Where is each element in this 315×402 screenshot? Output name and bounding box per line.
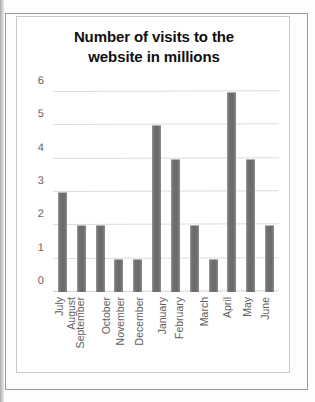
y-axis-tick-label: 1 [38, 241, 44, 253]
bar-slot [185, 92, 204, 292]
bar [114, 259, 123, 292]
x-axis-tick-label: December [132, 297, 144, 345]
bar-slot [222, 92, 241, 292]
y-axis-tick-label: 3 [38, 174, 44, 186]
bar [209, 259, 218, 292]
y-axis-tick-label: 5 [38, 107, 44, 119]
x-label-slot: May [241, 295, 260, 367]
x-axis-labels: JulyAugustSeptemberOctoberNovemberDecemb… [53, 295, 279, 367]
scanned-page: Number of visits to the website in milli… [0, 0, 315, 402]
bar-slot [204, 92, 223, 292]
bar-slot [241, 92, 260, 292]
bar [265, 225, 274, 292]
bar-slot [166, 92, 185, 292]
chart-title-line-2: website in millions [31, 47, 277, 67]
y-axis-tick-label: 6 [38, 74, 44, 86]
bar-series [53, 92, 279, 292]
bar-slot [147, 92, 166, 292]
plot-area: 0123456 [53, 92, 279, 292]
bar [58, 192, 67, 292]
x-axis-tick-label: April [221, 297, 233, 318]
bar [96, 225, 105, 292]
bar [152, 125, 161, 292]
bar [246, 159, 255, 292]
bar-slot [109, 92, 128, 292]
x-axis-tick-label: February [173, 297, 185, 339]
x-axis-tick-label: March [198, 297, 210, 326]
bar [77, 225, 86, 292]
x-axis-tick-label: November [114, 297, 126, 345]
y-axis-tick-label: 4 [38, 141, 44, 153]
y-axis-tick-label: 2 [38, 207, 44, 219]
x-axis-tick-label: September [74, 297, 86, 348]
x-label-slot: April [222, 295, 241, 367]
chart-title-line-1: Number of visits to the [31, 27, 277, 47]
bar [190, 225, 199, 292]
bar-slot [72, 92, 91, 292]
x-axis-tick-label: January [157, 297, 169, 334]
y-axis-tick-label: 0 [38, 274, 44, 286]
bar-slot [53, 92, 72, 292]
x-axis-tick-label: October [100, 297, 112, 334]
bar-slot [91, 92, 110, 292]
x-label-slot: March [204, 295, 223, 367]
x-axis-tick-label: May [241, 297, 253, 317]
bar-slot [128, 92, 147, 292]
bar-slot [260, 92, 279, 292]
bar [227, 92, 236, 292]
bar [171, 159, 180, 292]
x-axis-tick-label: July [53, 297, 65, 316]
x-axis-tick-label: June [258, 297, 270, 320]
chart-title: Number of visits to the website in milli… [31, 27, 277, 67]
bar [133, 259, 142, 292]
x-label-slot: June [260, 295, 279, 367]
page-edge-shadow [0, 0, 4, 402]
bar-chart: Number of visits to the website in milli… [16, 16, 290, 373]
